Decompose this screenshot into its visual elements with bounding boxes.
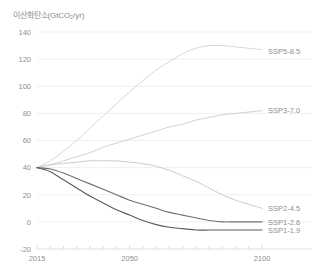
chart-plot-area: 140120100806040200-20201520502100SSP5-8.… xyxy=(0,0,315,278)
series-label-ssp3-7.0: SSP3-7.0 xyxy=(268,106,300,115)
ytick-label-20: 20 xyxy=(23,191,31,200)
series-line-ssp1-1.9 xyxy=(37,168,262,230)
ytick-label-60: 60 xyxy=(23,136,31,145)
ytick-label-140: 140 xyxy=(18,28,31,37)
series-line-ssp5-8.5 xyxy=(37,45,262,167)
ytick-label-0: 0 xyxy=(27,218,31,227)
ytick-label-120: 120 xyxy=(18,55,31,64)
ytick-label--20: -20 xyxy=(20,245,31,254)
xtick-label-2050: 2050 xyxy=(121,254,138,263)
series-label-ssp5-8.5: SSP5-8.5 xyxy=(268,47,300,56)
ytick-label-80: 80 xyxy=(23,109,31,118)
series-label-ssp1-1.9: SSP1-1.9 xyxy=(268,226,300,235)
ytick-label-100: 100 xyxy=(18,82,31,91)
co2-emissions-chart: 이산화탄소(GtCO₂/yr) 140120100806040200-20201… xyxy=(0,0,315,278)
chart-axis-title: 이산화탄소(GtCO₂/yr) xyxy=(13,9,84,20)
xtick-label-2100: 2100 xyxy=(254,254,271,263)
series-label-ssp2-4.5: SSP2-4.5 xyxy=(268,204,300,213)
series-line-ssp3-7.0 xyxy=(37,111,262,168)
ytick-label-40: 40 xyxy=(23,163,31,172)
xtick-label-2015: 2015 xyxy=(29,254,46,263)
